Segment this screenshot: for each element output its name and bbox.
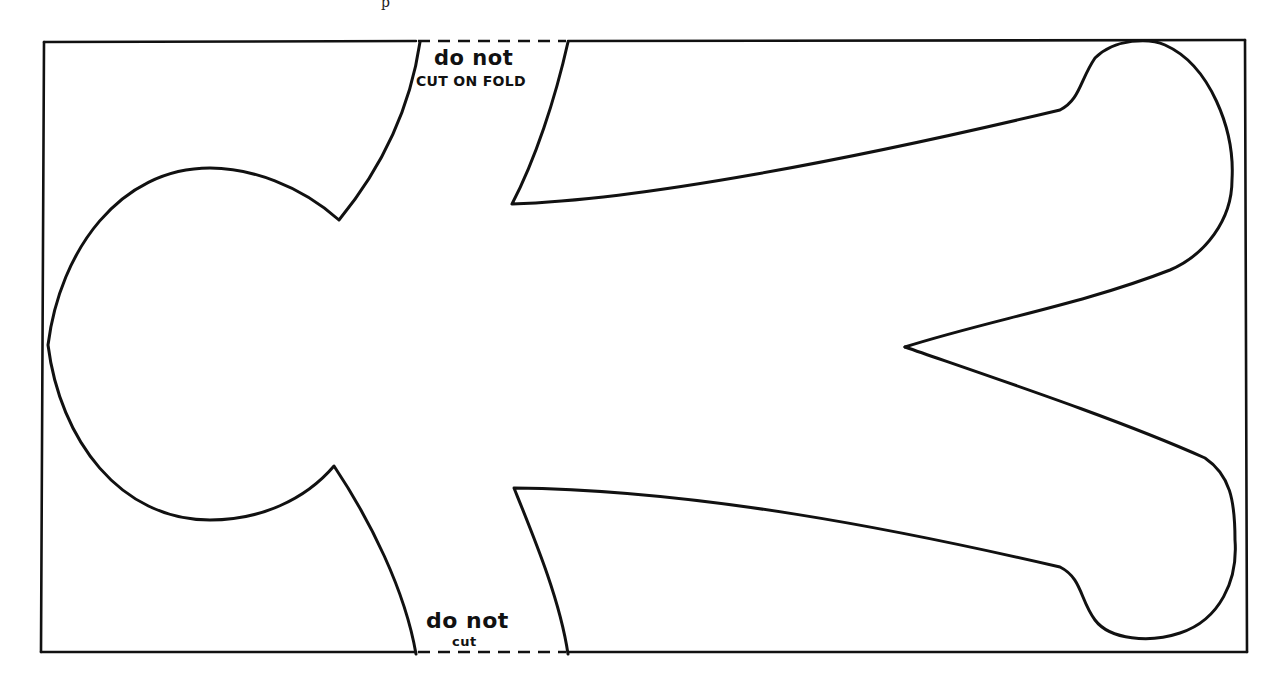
fold-label-top-line2: CUT ON FOLD (416, 74, 526, 88)
header-text-fragment: p (381, 0, 390, 10)
fold-label-top-line1: do not (434, 48, 513, 69)
doll-template-drawing (0, 0, 1272, 690)
head-outline (48, 42, 420, 654)
fold-label-bottom-line2: cut (452, 635, 477, 648)
outer-border (41, 40, 1247, 652)
upper-arm-outline (512, 41, 1232, 347)
template-canvas: p do not CUT ON FOLD do not cut (0, 0, 1272, 690)
doll-outline (48, 41, 1235, 654)
lower-arm-outline (514, 347, 1235, 654)
fold-label-bottom-line1: do not (426, 610, 509, 632)
